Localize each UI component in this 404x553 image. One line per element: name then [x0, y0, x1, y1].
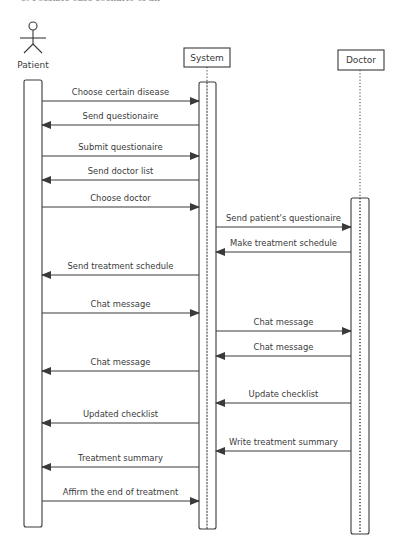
system-participant-box: System [184, 48, 230, 67]
message-arrow: Chat message [42, 357, 199, 371]
message-arrow: Updated checklist [42, 409, 199, 423]
message-arrow: Choose doctor [42, 193, 199, 207]
message-label: Choose certain disease [72, 87, 169, 97]
message-arrow: Make treatment schedule [216, 238, 351, 252]
message-label: Update checklist [249, 389, 320, 399]
message-arrow: Send doctor list [42, 166, 199, 180]
message-arrow: Write treatment summary [216, 437, 351, 451]
message-arrow: Update checklist [216, 389, 351, 403]
participant-heads: PatientSystemDoctor [17, 22, 384, 70]
message-arrow: Send questionaire [42, 111, 199, 125]
message-label: Send doctor list [88, 166, 154, 176]
messages: Choose certain diseaseSend questionaireS… [42, 87, 351, 501]
message-label: Chat message [254, 342, 314, 352]
activation-bars [24, 80, 369, 534]
lifelines [207, 67, 360, 534]
message-arrow: Send patient's questionaire [216, 213, 351, 227]
message-label: Make treatment schedule [230, 238, 337, 248]
doctor-participant-box: Doctor [338, 50, 384, 70]
system-label: System [190, 53, 224, 63]
message-arrow: Chat message [216, 342, 351, 356]
message-arrow: Affirm the end of treatment [42, 487, 199, 501]
sequence-diagram: PatientSystemDoctor Choose certain disea… [0, 0, 404, 553]
patient-activation-bar [24, 80, 42, 527]
message-arrow: Treatment summary [42, 453, 199, 467]
message-label: Send treatment schedule [68, 261, 174, 271]
message-label: Write treatment summary [229, 437, 338, 447]
message-label: Send patient's questionaire [226, 213, 341, 223]
message-label: Chat message [254, 317, 314, 327]
message-arrow: Choose certain disease [42, 87, 199, 101]
patient-label: Patient [17, 60, 49, 70]
message-label: Treatment summary [77, 453, 163, 463]
actor-stick-figure-icon [20, 22, 46, 53]
message-label: Choose doctor [90, 193, 151, 203]
message-arrow: Submit questionaire [42, 142, 199, 156]
message-arrow: Chat message [216, 317, 351, 331]
message-arrow: Chat message [42, 299, 199, 313]
message-arrow: Send treatment schedule [42, 261, 199, 275]
message-label: Chat message [91, 299, 151, 309]
doctor-label: Doctor [346, 55, 376, 65]
message-label: Submit questionaire [78, 142, 162, 152]
message-label: Send questionaire [83, 111, 159, 121]
message-label: Updated checklist [83, 409, 159, 419]
message-label: Chat message [91, 357, 151, 367]
message-label: Affirm the end of treatment [63, 487, 179, 497]
system-activation-bar [199, 82, 216, 529]
